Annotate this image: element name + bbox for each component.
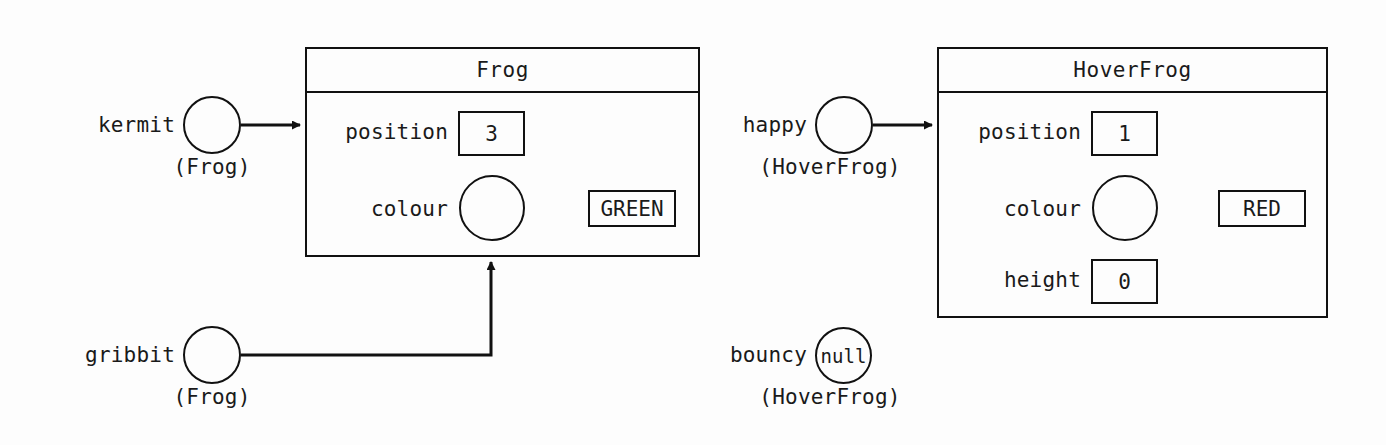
variable-type-bouncy: (HoverFrog) [715, 385, 945, 409]
arrow-gribbit-to-frog [241, 262, 491, 355]
variable-circle-gribbit[interactable] [183, 326, 241, 384]
hoverfrog-field-label-position: position [963, 120, 1081, 144]
hoverfrog-field-value-height[interactable]: 0 [1091, 259, 1158, 304]
variable-label-kermit: kermit [40, 113, 175, 137]
variable-label-gribbit: gribbit [40, 343, 175, 367]
hoverfrog-field-label-height: height [974, 268, 1081, 292]
frog-field-label-position: position [330, 120, 448, 144]
hoverfrog-field-value-colour[interactable]: RED [1218, 190, 1306, 227]
frog-object-header: Frog [307, 49, 698, 93]
frog-field-label-colour: colour [341, 197, 448, 221]
variable-type-gribbit: (Frog) [132, 385, 292, 409]
frog-field-value-position[interactable]: 3 [458, 111, 525, 156]
hoverfrog-object-header: HoverFrog [939, 49, 1326, 93]
variable-circle-happy[interactable] [815, 96, 873, 154]
variable-circle-kermit[interactable] [183, 96, 241, 154]
hoverfrog-field-label-colour: colour [974, 197, 1081, 221]
variable-label-happy: happy [690, 113, 807, 137]
hoverfrog-class-name: HoverFrog [1073, 58, 1191, 82]
frog-field-value-colour[interactable]: GREEN [588, 190, 676, 227]
variable-circle-bouncy[interactable]: null [815, 327, 872, 384]
frog-class-name: Frog [476, 58, 529, 82]
variable-label-bouncy: bouncy [690, 343, 807, 367]
hoverfrog-field-value-position[interactable]: 1 [1091, 111, 1158, 156]
frog-field-reference-circle-colour[interactable] [459, 175, 525, 241]
variable-type-happy: (HoverFrog) [715, 155, 945, 179]
hoverfrog-field-reference-circle-colour[interactable] [1092, 175, 1158, 241]
object-diagram-canvas: Frog position 3 colour GREEN HoverFrog p… [0, 0, 1386, 445]
variable-type-kermit: (Frog) [132, 155, 292, 179]
